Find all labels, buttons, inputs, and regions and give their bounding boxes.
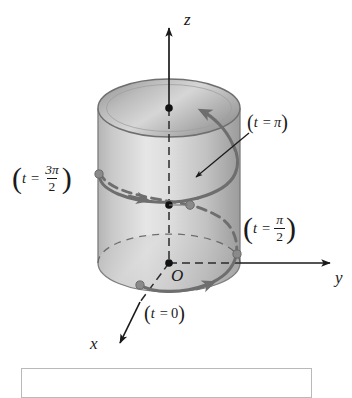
t-0-equals: = [157, 306, 171, 321]
t-3pi2-numerator: 3π [43, 163, 61, 178]
t-pi2-open-paren: ( [243, 213, 253, 243]
point-t-threehalfpi [95, 170, 103, 178]
annotation-t-zero: ( t = 0 ) [144, 303, 185, 323]
y-axis-label: y [333, 268, 343, 287]
t-3pi2-open-paren: ( [12, 163, 22, 193]
t-3pi2-denominator: 2 [47, 178, 58, 194]
annotation-t-pi: ( t = π ) [247, 112, 288, 132]
t-pi-value: π [274, 115, 281, 130]
t-pi-equals: = [260, 115, 274, 130]
point-t-0 [136, 281, 144, 289]
annotation-t-pi-over-two: ( t = π 2 ) [243, 213, 296, 244]
x-axis-label: x [89, 334, 98, 353]
t-pi2-numerator: π [274, 213, 285, 228]
axis-dot-top [165, 104, 173, 112]
z-axis-label: z [183, 10, 191, 29]
t-3pi2-equals: = [28, 171, 42, 186]
point-t-halfpi [233, 250, 241, 258]
t-pi-open-paren: ( [247, 112, 254, 132]
t-0-value: 0 [171, 306, 178, 321]
t-0-close-paren: ) [178, 303, 185, 323]
origin-label: O [171, 266, 183, 285]
t-pi2-close-paren: ) [286, 213, 296, 243]
t-pi2-fraction: π 2 [273, 213, 286, 244]
t-3pi2-fraction: 3π 2 [42, 163, 62, 194]
x-axis-line [120, 302, 140, 343]
t-pi2-denominator: 2 [274, 228, 285, 244]
annotation-t-three-pi-over-two: ( t = 3π 2 ) [12, 163, 72, 194]
t-3pi2-close-paren: ) [62, 163, 72, 193]
t-pi-close-paren: ) [281, 112, 288, 132]
t-pi2-equals: = [259, 221, 273, 236]
t-0-open-paren: ( [144, 303, 151, 323]
caption-box [21, 368, 312, 398]
